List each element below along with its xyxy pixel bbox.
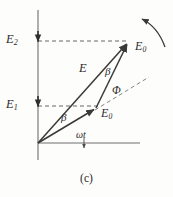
label-e2: E2 [6, 33, 18, 47]
label-beta-upper: β [105, 66, 110, 77]
label-e0-middle: E0 [101, 107, 112, 121]
vector-e0-second [96, 45, 127, 109]
label-beta-lower: β [61, 112, 66, 123]
label-phi: Φ [112, 85, 121, 97]
label-e-resultant: E [79, 62, 87, 75]
phasor-diagram-svg [0, 0, 173, 197]
phasor-figure: E2 E1 E0 E0 E β β Φ ωt (c) [0, 0, 173, 197]
label-e1: E1 [6, 98, 18, 112]
label-omega-t: ωt [76, 130, 86, 140]
label-e0-top: E0 [135, 40, 146, 54]
figure-caption: (c) [0, 172, 173, 184]
